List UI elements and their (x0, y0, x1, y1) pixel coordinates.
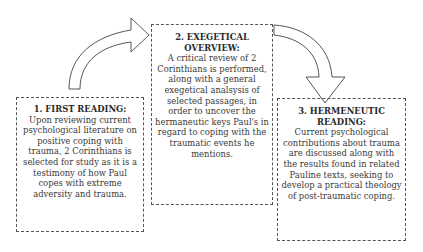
step-3-box: 3. HERMENEUTIC READING: Current psycholo… (277, 98, 406, 241)
step-1-text: Upon reviewing current psychological lit… (20, 115, 140, 200)
step-1-box: 1. FIRST READING: Upon reviewing current… (16, 97, 144, 232)
step-3-title: 3. HERMENEUTIC READING: (281, 106, 402, 127)
step-3-text: Current psychological contributions abou… (281, 127, 402, 201)
step-2-box: 2. EXEGETICAL OVERVIEW: A critical revie… (151, 24, 273, 205)
step-2-text: A critical review of 2 Corinthians is pe… (155, 53, 269, 159)
curved-arrow-icon (69, 18, 149, 89)
step-1-title: 1. FIRST READING: (20, 104, 140, 115)
step-2-title: 2. EXEGETICAL OVERVIEW: (155, 32, 269, 53)
curved-arrow-icon (274, 25, 345, 103)
